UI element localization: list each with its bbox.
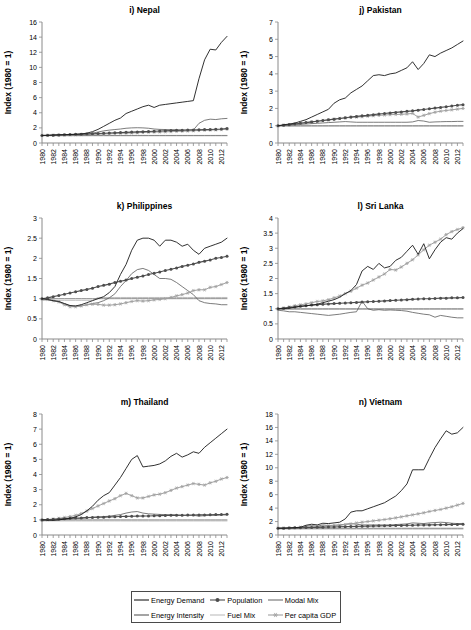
series-marker (158, 514, 161, 517)
x-tick-label: 1994 (353, 345, 360, 361)
series-marker (333, 302, 336, 305)
figure-root: i) NepalIndex (1980 = 1)0246810121416198… (0, 0, 471, 630)
series-marker (450, 108, 454, 111)
x-tick-label: 2004 (173, 541, 180, 557)
series-marker (119, 131, 122, 134)
series-marker (428, 523, 431, 526)
x-tick-label: 1980 (39, 541, 46, 557)
series-marker (456, 523, 459, 526)
x-tick-label: 1994 (353, 149, 360, 165)
x-tick-label: 2002 (398, 149, 405, 165)
series-marker (164, 514, 167, 517)
series-marker (462, 103, 465, 106)
series-marker (327, 118, 330, 121)
series-marker (383, 524, 386, 527)
panel-sri-lanka: l) Sri LankaIndex (1980 = 1)00.511.522.5… (236, 196, 471, 391)
series-marker (147, 514, 150, 517)
x-tick-label: 1982 (50, 149, 57, 165)
y-tick-label: 2.5 (263, 260, 273, 267)
series-marker (57, 294, 60, 297)
y-tick-label: 1.5 (263, 290, 273, 297)
x-tick-label: 1982 (50, 345, 57, 361)
legend-label: Modal Mix (285, 595, 319, 604)
x-tick-label: 1984 (297, 541, 304, 557)
x-tick-label: 1998 (376, 541, 383, 557)
series-marker (191, 289, 195, 292)
x-tick-label: 2010 (207, 541, 214, 557)
series-marker (450, 105, 453, 108)
series-marker (147, 299, 151, 302)
series-marker (422, 523, 425, 526)
y-tick-label: 16 (29, 19, 37, 26)
panel-pakistan: j) PakistanIndex (1980 = 1)0123456719801… (236, 0, 471, 195)
series-marker (361, 525, 364, 528)
x-tick-label: 2012 (218, 345, 225, 361)
series-marker (130, 131, 133, 134)
series-marker (136, 130, 139, 133)
y-tick-label: 0.5 (27, 315, 37, 322)
series-marker (417, 109, 420, 112)
series-marker (164, 269, 167, 272)
series-marker (136, 515, 139, 518)
x-tick-label: 2006 (184, 149, 191, 165)
series-marker (417, 298, 420, 301)
x-tick-label: 2002 (398, 541, 405, 557)
series-marker (91, 132, 94, 135)
series-marker (316, 526, 319, 529)
y-tick-label: 4 (269, 70, 273, 77)
series-marker (455, 107, 459, 110)
y-tick-label: 6 (269, 491, 273, 498)
x-tick-label: 2000 (151, 149, 158, 165)
series-marker (191, 482, 195, 485)
series-marker (175, 267, 178, 270)
series-marker (333, 118, 336, 121)
series-marker (377, 524, 380, 527)
x-tick-label: 1984 (297, 345, 304, 361)
x-tick-label: 1982 (286, 149, 293, 165)
series-marker (394, 111, 397, 114)
series-marker (208, 286, 212, 289)
series-marker (399, 515, 403, 518)
y-tick-label: 0 (33, 532, 37, 539)
x-tick-label: 2008 (196, 149, 203, 165)
series-marker (181, 514, 184, 517)
x-tick-label: 2012 (218, 149, 225, 165)
y-tick-label: 2 (269, 275, 273, 282)
panel-title: n) Vietnam (359, 397, 403, 407)
y-tick-label: 3 (33, 215, 37, 222)
x-tick-label: 1990 (331, 149, 338, 165)
series-marker (377, 300, 380, 303)
series-marker (417, 524, 420, 527)
series-marker (158, 271, 161, 274)
series-marker (444, 506, 448, 509)
y-tick-label: 4 (269, 215, 273, 222)
series-marker (169, 514, 172, 517)
series-marker (349, 525, 352, 528)
series-marker (389, 299, 392, 302)
y-tick-label: 0 (33, 140, 37, 147)
series-marker (186, 514, 189, 517)
x-tick-label: 1996 (364, 345, 371, 361)
series-marker (203, 483, 207, 486)
x-tick-label: 1998 (140, 149, 147, 165)
series-marker (158, 493, 162, 496)
y-tick-label: 5 (33, 456, 37, 463)
series-marker (119, 515, 122, 518)
series-marker (344, 302, 347, 305)
x-tick-label: 2000 (151, 345, 158, 361)
legend-item-fuel-mix: Fuel Mix (208, 607, 265, 622)
x-tick-label: 1984 (61, 345, 68, 361)
series-marker (433, 111, 437, 114)
series-marker (450, 523, 453, 526)
series-marker (400, 524, 403, 527)
series-marker (220, 513, 223, 516)
x-tick-label: 2006 (420, 541, 427, 557)
series-marker (219, 477, 223, 480)
x-tick-label: 1992 (106, 345, 113, 361)
panel-title: k) Philippines (117, 201, 173, 211)
series-marker (153, 514, 156, 517)
series-marker (361, 301, 364, 304)
y-tick-label: 12 (265, 451, 273, 458)
series-marker (327, 526, 330, 529)
series-marker (97, 285, 100, 288)
